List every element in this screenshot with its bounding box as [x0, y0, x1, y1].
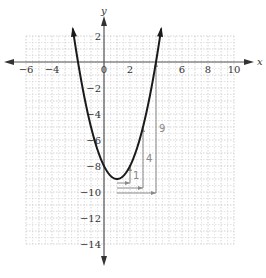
y-tick-label: 2 — [95, 31, 101, 42]
y-tick-label: −14 — [80, 239, 101, 250]
y-tick-label: −12 — [80, 213, 101, 224]
x-tick-label: 6 — [179, 64, 185, 75]
x-tick-label: 0 — [101, 64, 107, 75]
y-tick-label: −8 — [86, 161, 101, 172]
x-tick-label: −6 — [19, 64, 34, 75]
x-tick-label: 8 — [205, 64, 211, 75]
axes — [4, 16, 254, 266]
y-tick-label: −10 — [80, 187, 101, 198]
x-tick-label: −4 — [45, 64, 60, 75]
step-label: 4 — [146, 153, 152, 164]
parabola-graph: −6−40268102−2−4−6−8−10−12−14 149 x y — [0, 0, 266, 278]
step-label: 9 — [159, 123, 165, 134]
chart-canvas: −6−40268102−2−4−6−8−10−12−14 149 x y — [0, 0, 266, 278]
step-label: 1 — [133, 170, 139, 181]
x-tick-label: 10 — [228, 64, 241, 75]
y-tick-label: −2 — [86, 83, 101, 94]
y-axis-label: y — [100, 5, 107, 16]
x-tick-label: 2 — [127, 64, 133, 75]
x-axis-label: x — [257, 56, 263, 67]
